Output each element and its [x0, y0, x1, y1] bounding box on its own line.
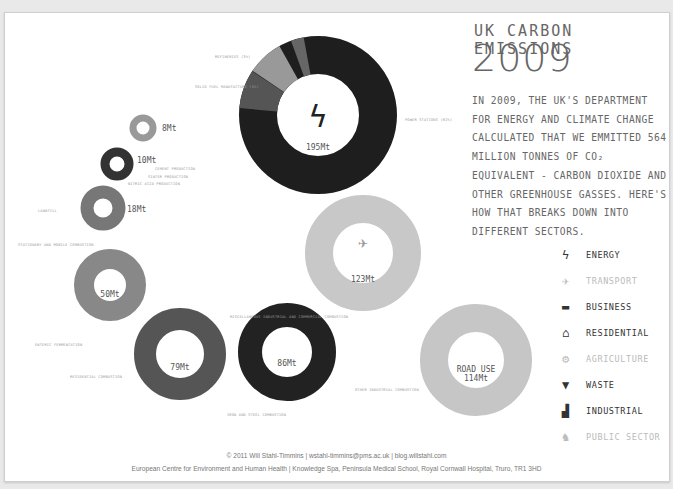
svg-text:ϟ: ϟ [309, 99, 327, 134]
bin-icon: ▼ [554, 378, 578, 392]
footer-credits: © 2011 Will Stahl-Timmins | wstahl-timmi… [0, 452, 673, 459]
year-heading: 2009 [472, 36, 573, 80]
business-donut: 86Mt MISCELLANEOUS INDUSTRIAL AND COMMER… [227, 315, 419, 417]
svg-text:OTHER INDUSTRIAL COMBUSTION: OTHER INDUSTRIAL COMBUSTION [355, 388, 419, 392]
svg-text:RESIDENTIAL COMBUSTION: RESIDENTIAL COMBUSTION [70, 375, 122, 379]
svg-text:195Mt: 195Mt [306, 143, 330, 152]
svg-text:ROAD USE: ROAD USE [457, 365, 496, 374]
intro-text: IN 2009, THE UK'S DEPARTMENT FOR ENERGY … [472, 92, 672, 242]
svg-text:✈: ✈ [358, 233, 368, 252]
lightning-icon: ϟ [554, 248, 578, 262]
svg-text:SOLID FUEL MANUFACTURE (5%): SOLID FUEL MANUFACTURE (5%) [195, 85, 259, 89]
svg-text:SINTER PRODUCTION: SINTER PRODUCTION [148, 175, 188, 179]
sector-legend: ϟENERGY ✈TRANSPORT ▬BUSINESS ⌂RESIDENTIA… [554, 242, 660, 450]
legend-transport: ✈TRANSPORT [554, 268, 660, 294]
residential-donut: 79Mt RESIDENTIAL COMBUSTION [70, 319, 215, 389]
transport-donut: ✈ 123Mt [319, 209, 407, 297]
legend-residential: ⌂RESIDENTIAL [554, 320, 660, 346]
bowler-hat-icon: ▬ [554, 300, 578, 314]
agriculture-donut: 50Mt STATIONARY AND MOBILE COMBUSTION EN… [18, 243, 136, 347]
svg-text:CEMENT PRODUCTION: CEMENT PRODUCTION [155, 167, 195, 171]
transport-icon: ✈ [554, 274, 578, 288]
svg-text:REFINERIES (3%): REFINERIES (3%) [215, 55, 250, 59]
industrial-donut: 10Mt CEMENT PRODUCTION SINTER PRODUCTION… [105, 152, 195, 186]
svg-text:STATIONARY AND MOBILE COMBUSTI: STATIONARY AND MOBILE COMBUSTION [18, 243, 94, 247]
road-use-donut: ROAD USE 114Mt [434, 318, 518, 402]
legend-public-sector: ♞PUBLIC SECTOR [554, 424, 660, 450]
svg-text:10Mt: 10Mt [137, 156, 156, 165]
legend-energy: ϟENERGY [554, 242, 660, 268]
svg-text:IRON AND STEEL COMBUSTION: IRON AND STEEL COMBUSTION [227, 413, 286, 417]
factory-icon: ▟ [554, 404, 578, 418]
svg-text:50Mt: 50Mt [100, 290, 119, 299]
legend-agriculture: ⚙AGRICULTURE [554, 346, 660, 372]
svg-text:NITRIC ACID PRODUCTION: NITRIC ACID PRODUCTION [128, 182, 180, 186]
svg-text:ENTERIC FERMENTATION: ENTERIC FERMENTATION [35, 343, 82, 347]
svg-text:MISCELLANEOUS INDUSTRIAL AND C: MISCELLANEOUS INDUSTRIAL AND COMMERCIAL … [230, 315, 348, 319]
svg-text:79Mt: 79Mt [170, 363, 189, 372]
footer-address: European Centre for Environment and Huma… [0, 465, 673, 472]
house-icon: ⌂ [554, 326, 578, 340]
energy-donut: ϟ 195Mt REFINERIES (3%) SOLID FUEL MANUF… [195, 32, 452, 199]
tractor-icon: ⚙ [554, 352, 578, 366]
svg-text:114Mt: 114Mt [464, 374, 488, 383]
public-sector-donut: 8Mt [133, 118, 177, 138]
legend-waste: ▼WASTE [554, 372, 660, 398]
svg-text:123Mt: 123Mt [351, 275, 375, 284]
svg-text:LANDFILL: LANDFILL [38, 209, 57, 213]
legend-industrial: ▟INDUSTRIAL [554, 398, 660, 424]
svg-text:8Mt: 8Mt [162, 124, 177, 133]
waste-donut: 18Mt LANDFILL [38, 192, 146, 224]
svg-text:18Mt: 18Mt [127, 205, 146, 214]
svg-text:86Mt: 86Mt [277, 359, 296, 368]
svg-text:POWER STATIONS (82%): POWER STATIONS (82%) [405, 118, 452, 122]
people-icon: ♞ [554, 430, 578, 444]
legend-business: ▬BUSINESS [554, 294, 660, 320]
